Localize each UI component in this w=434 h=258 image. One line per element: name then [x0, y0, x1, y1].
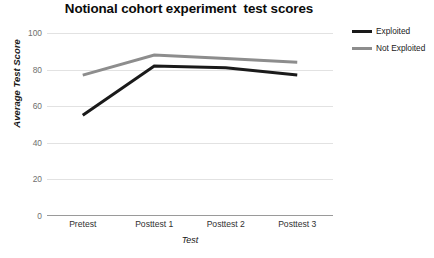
legend-color-swatch: [352, 30, 372, 33]
y-tick-label: 40: [16, 139, 42, 147]
series-line: [83, 66, 298, 115]
chart-title: Notional cohort experiment test scores: [44, 1, 334, 16]
y-tick-label: 80: [16, 66, 42, 74]
x-tick-label: Posttest 1: [135, 219, 173, 229]
series-lines: [47, 33, 333, 216]
y-tick-label: 0: [16, 212, 42, 220]
x-tick-label: Pretest: [69, 219, 96, 229]
x-tick-label: Posttest 2: [207, 219, 245, 229]
x-axis-title: Test: [47, 235, 333, 245]
legend-label: Not Exploited: [376, 43, 425, 53]
gridline: [47, 216, 333, 217]
y-tick-label: 60: [16, 102, 42, 110]
y-tick-label: 20: [16, 175, 42, 183]
legend-color-swatch: [352, 47, 372, 50]
line-chart: Notional cohort experiment test scores A…: [0, 0, 434, 258]
y-axis-tick-labels: 020406080100: [8, 0, 42, 258]
x-axis-tick-labels: PretestPosttest 1Posttest 2Posttest 3: [47, 219, 333, 235]
plot-area: [47, 33, 333, 216]
legend-label: Exploited: [376, 26, 410, 36]
y-tick-label: 100: [16, 29, 42, 37]
legend-item[interactable]: Exploited: [352, 24, 434, 38]
legend-item[interactable]: Not Exploited: [352, 41, 434, 55]
x-tick-label: Posttest 3: [278, 219, 316, 229]
chart-legend: ExploitedNot Exploited: [352, 24, 434, 58]
